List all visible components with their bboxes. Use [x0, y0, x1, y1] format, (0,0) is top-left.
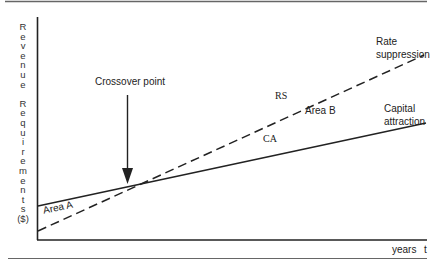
- crossover-label: Crossover point: [95, 76, 165, 87]
- capital-attraction-label: Capitalattraction: [384, 102, 425, 128]
- area-b-label: Area B: [305, 105, 336, 116]
- x-axis-label: years: [392, 244, 416, 255]
- y-axis-label: R e v e n u e R e q u i r e m e n t s ($…: [17, 22, 29, 223]
- capital-attraction-line: [38, 123, 426, 206]
- rate-suppression-label: Ratesuppression: [376, 35, 430, 61]
- rs-label: RS: [275, 90, 287, 101]
- crossover-arrow-head: [122, 168, 133, 184]
- x-axis-symbol: t: [424, 244, 427, 255]
- ca-label: CA: [263, 133, 277, 144]
